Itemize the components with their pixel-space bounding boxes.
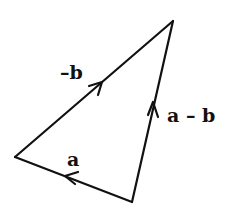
edge-neg-b (15, 21, 173, 157)
label-a-minus-b: a – b (167, 106, 215, 125)
label-a: a (67, 150, 79, 169)
label-neg-b: –b (60, 63, 83, 82)
